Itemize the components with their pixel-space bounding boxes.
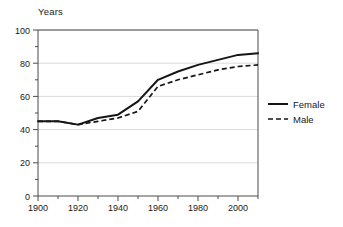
y-tick-label-40: 40 <box>20 125 30 135</box>
series-line-male <box>38 65 258 125</box>
y-axis-ticks <box>33 30 38 196</box>
x-axis-ticks <box>38 196 258 201</box>
plot-frame <box>38 30 258 196</box>
data-series <box>38 53 258 124</box>
chart-legend: Female Male <box>268 99 325 125</box>
y-tick-label-20: 20 <box>20 158 30 168</box>
gridlines <box>38 30 258 163</box>
y-tick-label-100: 100 <box>15 26 30 36</box>
y-tick-label-80: 80 <box>20 59 30 69</box>
x-tick-label-1900: 1900 <box>28 203 48 213</box>
y-axis-tick-labels: 100 80 60 40 20 0 <box>15 26 30 202</box>
chart-figure: Years <box>0 0 343 227</box>
legend-label-female: Female <box>293 99 325 110</box>
line-chart-plot: 100 80 60 40 20 0 1900 1920 1940 <box>0 0 343 227</box>
legend-label-male: Male <box>293 114 314 125</box>
x-tick-label-1920: 1920 <box>68 203 88 213</box>
y-tick-label-60: 60 <box>20 92 30 102</box>
y-tick-label-0: 0 <box>25 192 30 202</box>
x-tick-label-1960: 1960 <box>148 203 168 213</box>
x-tick-label-2000: 2000 <box>228 203 248 213</box>
x-tick-label-1980: 1980 <box>188 203 208 213</box>
series-line-female <box>38 53 258 124</box>
x-tick-label-1940: 1940 <box>108 203 128 213</box>
x-axis-tick-labels: 1900 1920 1940 1960 1980 2000 <box>28 203 248 213</box>
